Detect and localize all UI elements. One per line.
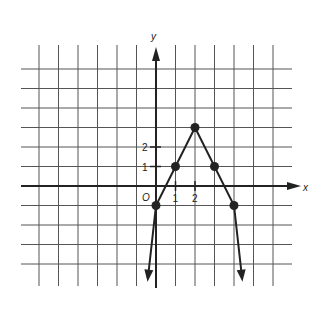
data-point: [152, 201, 161, 210]
coordinate-plane: xyO1212: [0, 0, 322, 309]
data-point: [210, 162, 219, 171]
origin-label: O: [142, 192, 150, 203]
data-point: [191, 123, 200, 132]
x-tick-label: 1: [173, 193, 179, 204]
x-tick-label: 2: [192, 193, 198, 204]
data-point: [230, 201, 239, 210]
line-arrow-icon: [144, 269, 153, 281]
data-point: [171, 162, 180, 171]
x-axis-label: x: [302, 182, 309, 193]
x-axis-arrow-icon: [287, 182, 301, 190]
y-tick-label: 2: [142, 142, 148, 153]
line-arrow-icon: [237, 269, 246, 281]
y-tick-label: 1: [142, 162, 148, 173]
y-axis-arrow-icon: [152, 47, 160, 61]
y-axis-label: y: [150, 31, 157, 42]
